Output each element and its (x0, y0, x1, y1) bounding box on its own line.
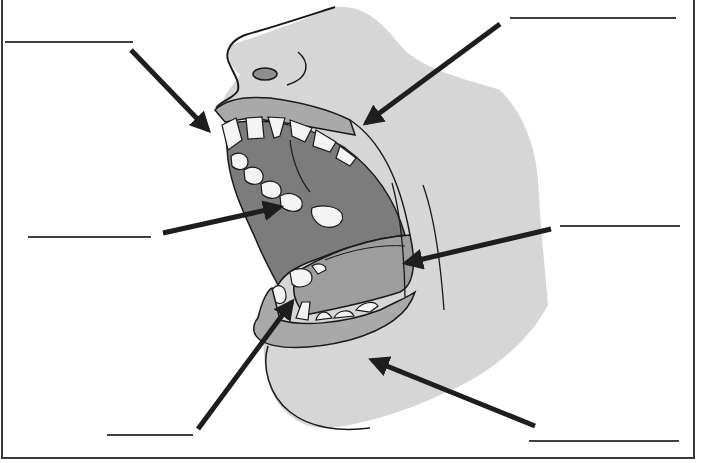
nostril (253, 68, 277, 80)
arrow-upper-left (131, 50, 208, 130)
mouth-anatomy-diagram (0, 0, 701, 463)
label-upper-left (5, 42, 208, 130)
labeling-worksheet (0, 0, 701, 463)
label-middle-left (28, 207, 280, 237)
